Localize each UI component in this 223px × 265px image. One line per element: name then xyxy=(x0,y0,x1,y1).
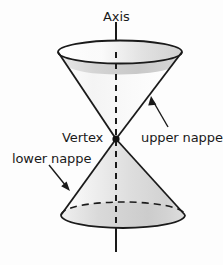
lower-nappe-arrow-shaft xyxy=(49,165,66,186)
axis-label: Axis xyxy=(103,10,130,23)
cone-figure: Axis Vertex upper nappe lower nappe xyxy=(0,0,223,265)
upper-nappe-arrow-shaft xyxy=(153,101,168,127)
vertex-label: Vertex xyxy=(62,131,103,144)
upper-nappe-arrow-head xyxy=(148,96,156,105)
lower-nappe-arrow-head xyxy=(61,181,70,191)
upper-nappe-label: upper nappe xyxy=(141,131,223,144)
vertex-point-marker xyxy=(112,135,119,142)
lower-nappe-label: lower nappe xyxy=(12,152,91,165)
